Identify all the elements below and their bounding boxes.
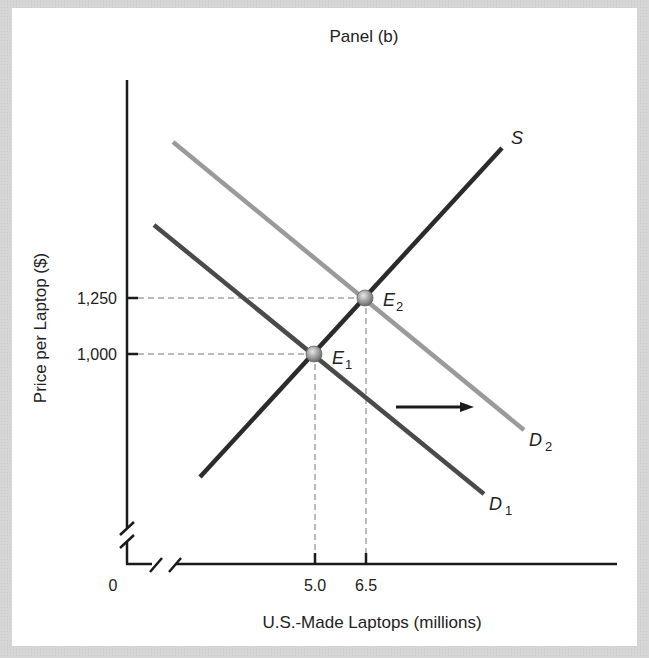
supply-label: S	[511, 128, 523, 148]
svg-text:D: D	[489, 494, 502, 514]
svg-text:D: D	[529, 430, 542, 450]
y-tick-1250: 1,250	[77, 290, 117, 307]
x-axis	[126, 558, 617, 572]
svg-text:1: 1	[505, 503, 512, 518]
d1-label: D 1	[489, 494, 512, 518]
supply-curve	[200, 148, 502, 477]
e2-label: E 2	[383, 290, 403, 314]
x-tick-0: 0	[109, 577, 118, 594]
chart-title: Panel (b)	[330, 27, 399, 46]
y-axis	[120, 80, 134, 564]
equilibrium-point-e1	[306, 346, 322, 362]
e1-label: E 1	[332, 348, 352, 372]
x-tick-5: 5.0	[304, 577, 326, 594]
svg-text:E: E	[383, 290, 396, 310]
d2-label: D 2	[529, 430, 552, 454]
svg-text:2: 2	[545, 439, 552, 454]
supply-demand-chart: Panel (b) Price per Laptop ($) 1,250 1,0…	[0, 0, 649, 658]
x-axis-label: U.S.-Made Laptops (millions)	[262, 613, 481, 632]
svg-text:E: E	[332, 348, 345, 368]
y-axis-label: Price per Laptop ($)	[31, 253, 50, 403]
svg-text:2: 2	[396, 299, 403, 314]
equilibrium-point-e2	[357, 290, 373, 306]
svg-text:1: 1	[345, 357, 352, 372]
x-tick-6-5: 6.5	[355, 577, 377, 594]
y-tick-1000: 1,000	[77, 346, 117, 363]
shift-arrow-icon	[396, 402, 474, 412]
